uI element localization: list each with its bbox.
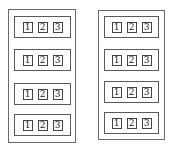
cell-2: 2 [127,87,137,98]
cell-3: 3 [142,118,152,129]
cell-3: 3 [53,22,63,33]
cell-1: 1 [112,22,122,33]
left-group-1: 1 2 3 [14,16,71,38]
cell-2: 2 [127,22,137,33]
cell-1: 1 [23,120,33,131]
cell-3: 3 [53,89,63,100]
cell-1: 1 [23,22,33,33]
right-container: 1 2 3 1 2 3 1 2 3 1 2 3 [98,10,165,140]
left-group-3: 1 2 3 [14,83,71,105]
cell-1: 1 [112,118,122,129]
left-group-2: 1 2 3 [14,49,71,71]
left-container: 1 2 3 1 2 3 1 2 3 1 2 3 [8,9,76,143]
cell-2: 2 [38,22,48,33]
cell-3: 3 [53,120,63,131]
cell-3: 3 [142,87,152,98]
right-group-1: 1 2 3 [104,16,159,38]
right-group-4: 1 2 3 [104,112,159,134]
cell-3: 3 [53,55,63,66]
cell-1: 1 [112,55,122,66]
right-group-2: 1 2 3 [104,49,159,71]
cell-1: 1 [23,55,33,66]
cell-2: 2 [38,120,48,131]
cell-2: 2 [38,55,48,66]
right-group-3: 1 2 3 [104,81,159,103]
cell-1: 1 [23,89,33,100]
cell-3: 3 [142,22,152,33]
cell-2: 2 [127,55,137,66]
cell-2: 2 [38,89,48,100]
cell-1: 1 [112,87,122,98]
cell-3: 3 [142,55,152,66]
cell-2: 2 [127,118,137,129]
left-group-4: 1 2 3 [14,114,71,136]
